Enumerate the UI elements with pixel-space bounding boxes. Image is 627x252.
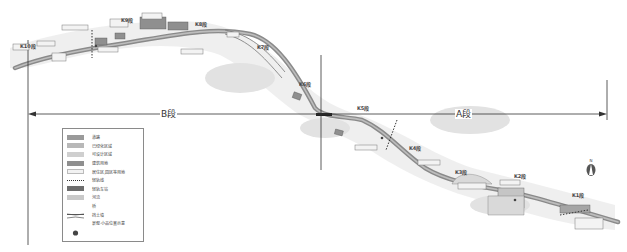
legend-item-greened-area: 已绿化区域 (67, 142, 139, 151)
legend-label: 挡土墙 (92, 212, 104, 218)
section-label-b: B段 (160, 109, 177, 119)
legend-item-road: 道路 (67, 133, 139, 142)
segment-label-k3: K3段 (455, 168, 467, 175)
segment-label-k1: K1段 (572, 191, 584, 198)
light-rail-stations (316, 113, 332, 116)
legend-item-light-rail-line: 轻轨线 (67, 176, 139, 185)
design-area-swatch-icon (67, 152, 84, 157)
legend-item-light-rail-station: 轻轨车站 (67, 185, 139, 194)
legend-item-residential-land: 居住区,园区等用地 (67, 167, 139, 176)
legend-label: 道路 (92, 134, 100, 140)
segment-label-k9: K9段 (121, 16, 133, 23)
segment-label-k4: K4段 (409, 144, 421, 151)
legend-item-design-area: 可设计区域 (67, 150, 139, 159)
svg-text:N: N (590, 158, 593, 163)
segment-label-k6: K6段 (299, 80, 311, 87)
legend-item-landscape-feature: 景观·小品位置示意 (67, 219, 139, 228)
legend-label: 景观·小品位置示意 (92, 220, 125, 226)
north-arrow-icon: N (585, 158, 597, 178)
segment-label-k2: K2段 (514, 172, 526, 179)
legend-label: 居住区,园区等用地 (92, 169, 125, 175)
legend-label: 桥 (92, 203, 96, 209)
residential-land-swatch-icon (67, 169, 84, 174)
legend-item-river: 河流 (67, 193, 139, 202)
segment-label-k8: K8段 (195, 20, 207, 27)
north-arrow: N (585, 158, 597, 178)
light-rail-station-swatch-icon (67, 186, 84, 191)
legend-item-building-land: 建筑用地 (67, 159, 139, 168)
legend-label: 河流 (92, 194, 100, 200)
legend-label: 已绿化区域 (92, 143, 112, 149)
section-label-a: A段 (455, 109, 472, 119)
legend-label: 建筑用地 (92, 160, 108, 166)
legend-item-bridge: 桥 (67, 202, 139, 211)
segment-label-k7: K7段 (257, 43, 269, 50)
segment-label-k10: K10段 (20, 42, 36, 49)
river-swatch-icon (67, 195, 84, 200)
bridge-icon (67, 204, 84, 209)
landscape-feature-dot-icon (67, 221, 84, 226)
retaining-wall-icon (67, 214, 84, 215)
building-land-swatch-icon (67, 161, 84, 166)
segment-label-k5: K5段 (357, 104, 369, 111)
light-rail-line-icon (67, 180, 84, 181)
road-swatch-icon (67, 135, 84, 140)
legend-label: 轻轨线 (92, 177, 104, 183)
map-legend: 道路 已绿化区域 可设计区域 建筑用地 居住区,园区等用地 轻轨线 轻轨车站 河… (62, 128, 144, 242)
legend-label: 轻轨车站 (92, 186, 108, 192)
legend-label: 可设计区域 (92, 151, 112, 157)
greened-area-swatch-icon (67, 143, 84, 148)
